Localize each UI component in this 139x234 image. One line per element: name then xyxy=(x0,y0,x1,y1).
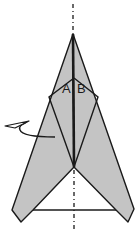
center-fold-line xyxy=(73,34,74,167)
left-flap xyxy=(12,34,74,222)
label-b: B xyxy=(77,81,86,96)
origami-diagram: A B xyxy=(0,0,139,234)
label-a: A xyxy=(62,81,71,96)
right-flap xyxy=(73,34,134,222)
